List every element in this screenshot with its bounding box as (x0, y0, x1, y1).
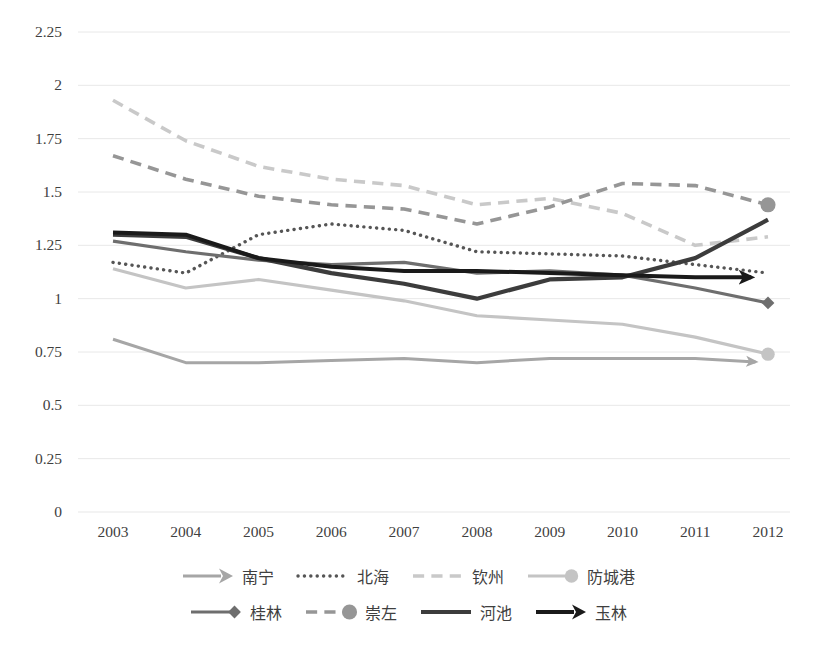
x-tick-label: 2010 (587, 524, 657, 540)
x-tick-label: 2008 (442, 524, 512, 540)
y-tick-label: 1 (0, 291, 62, 307)
x-tick-label: 2009 (515, 524, 585, 540)
legend-label: 北海 (357, 564, 389, 588)
legend-label: 河池 (480, 600, 512, 624)
legend-swatch-icon (419, 603, 473, 621)
y-tick-label: 1.5 (0, 184, 62, 200)
legend-label: 桂林 (250, 600, 282, 624)
series-endpoint-marker (760, 197, 775, 212)
x-tick-label: 2004 (151, 524, 221, 540)
legend-row: 桂林崇左河池玉林 (0, 594, 816, 630)
series-line (113, 100, 768, 245)
y-tick-label: 2.25 (0, 24, 62, 40)
y-tick-label: 1.75 (0, 131, 62, 147)
x-tick-label: 2011 (660, 524, 730, 540)
x-tick-label: 2005 (224, 524, 294, 540)
series-line (113, 339, 755, 362)
y-tick-label: 0.75 (0, 344, 62, 360)
legend-swatch-icon (181, 567, 235, 585)
legend-item-1[interactable]: 北海 (296, 564, 389, 588)
legend-item-6[interactable]: 河池 (419, 600, 512, 624)
y-tick-label: 0.25 (0, 451, 62, 467)
legend-swatch-icon (189, 603, 243, 621)
series-line (113, 156, 768, 224)
legend-label: 崇左 (365, 600, 397, 624)
legend-swatch-icon (526, 567, 580, 585)
y-tick-label: 0.5 (0, 397, 62, 413)
legend-label: 南宁 (242, 564, 274, 588)
legend-label: 钦州 (472, 564, 504, 588)
legend-item-2[interactable]: 钦州 (411, 564, 504, 588)
y-tick-label: 1.25 (0, 237, 62, 253)
x-tick-label: 2007 (369, 524, 439, 540)
series-line (113, 269, 768, 354)
legend-item-3[interactable]: 防城港 (526, 564, 635, 588)
legend-item-0[interactable]: 南宁 (181, 564, 274, 588)
y-tick-label: 0 (0, 504, 62, 520)
x-tick-label: 2012 (733, 524, 803, 540)
legend-label: 防城港 (587, 564, 635, 588)
legend-row: 南宁北海钦州防城港 (0, 558, 816, 594)
legend-item-7[interactable]: 玉林 (534, 600, 627, 624)
series-endpoint-marker (761, 347, 774, 360)
line-chart: 00.250.50.7511.251.51.7522.25 2003200420… (0, 0, 816, 659)
legend: 南宁北海钦州防城港桂林崇左河池玉林 (0, 558, 816, 630)
legend-swatch-icon (411, 567, 465, 585)
x-tick-label: 2006 (296, 524, 366, 540)
y-tick-label: 2 (0, 77, 62, 93)
legend-item-5[interactable]: 崇左 (304, 600, 397, 624)
x-tick-label: 2003 (78, 524, 148, 540)
legend-swatch-icon (304, 603, 358, 621)
legend-label: 玉林 (595, 600, 627, 624)
legend-item-4[interactable]: 桂林 (189, 600, 282, 624)
legend-swatch-icon (534, 603, 588, 621)
legend-swatch-icon (296, 567, 350, 585)
